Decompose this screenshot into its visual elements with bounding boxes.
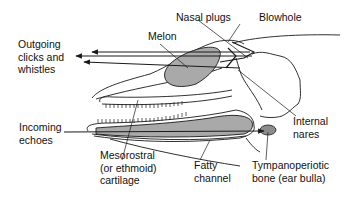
label-nasal-plugs: Nasal plugs bbox=[176, 11, 231, 24]
label-incoming-echoes: Incoming echoes bbox=[19, 121, 62, 146]
label-melon: Melon bbox=[148, 30, 177, 43]
lower-teeth bbox=[98, 112, 186, 123]
label-internal-nares: Internal nares bbox=[293, 115, 328, 140]
nasal-passages bbox=[220, 42, 254, 68]
label-outgoing-clicks: Outgoing clicks and whistles bbox=[18, 38, 64, 76]
label-mesorostral-cartilage: Mesorostral (or ethmoid) cartilage bbox=[100, 149, 157, 187]
label-fatty-channel: Fatty channel bbox=[194, 159, 231, 184]
label-tympanoperiotic-bone: Tympanoperiotic bone (ear bulla) bbox=[252, 159, 329, 184]
outgoing-arrows bbox=[76, 52, 252, 68]
label-blowhole: Blowhole bbox=[259, 11, 302, 24]
